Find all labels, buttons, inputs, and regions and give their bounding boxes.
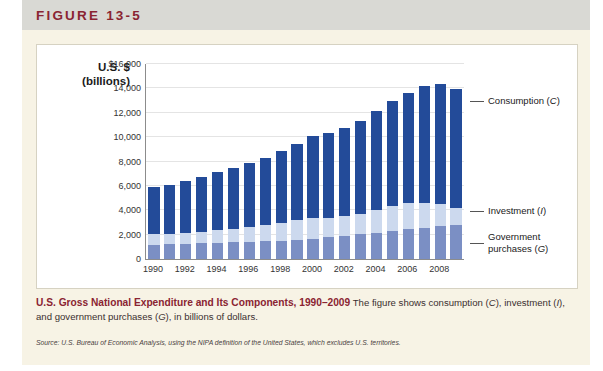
caption-title: U.S. Gross National Expenditure and Its … bbox=[36, 297, 350, 308]
bar-segment-government bbox=[339, 236, 350, 259]
bar bbox=[148, 187, 159, 259]
bar-segment-government bbox=[276, 241, 287, 259]
bar-segment-government bbox=[291, 240, 302, 259]
bar bbox=[419, 86, 430, 259]
bar-segment-consumption bbox=[244, 163, 255, 227]
bar-segment-government bbox=[419, 228, 430, 259]
bar bbox=[244, 163, 255, 259]
caption-body-4: ), in billions of dollars. bbox=[166, 311, 258, 322]
bar-segment-consumption bbox=[164, 185, 175, 234]
bar-segment-investment bbox=[291, 220, 302, 240]
bar bbox=[307, 136, 318, 259]
bar-segment-government bbox=[387, 231, 398, 259]
government-leader-line bbox=[470, 243, 484, 244]
x-tick-label: 2004 bbox=[359, 264, 393, 274]
bar-segment-investment bbox=[387, 206, 398, 231]
bar-segment-investment bbox=[212, 230, 223, 243]
bar-segment-consumption bbox=[228, 168, 239, 229]
bar-segment-consumption bbox=[276, 151, 287, 222]
caption-body-2: ), investment ( bbox=[496, 297, 557, 308]
figure-source: Source: U.S. Bureau of Economic Analysis… bbox=[36, 339, 576, 346]
bar-segment-investment bbox=[307, 218, 318, 239]
bar-segment-investment bbox=[180, 233, 191, 244]
gridline bbox=[146, 63, 464, 64]
bar-segment-investment bbox=[355, 214, 366, 234]
bar-segment-investment bbox=[276, 223, 287, 241]
annotation-government-label-2: purchases ( bbox=[488, 243, 538, 254]
bar bbox=[323, 133, 334, 259]
bar-segment-consumption bbox=[355, 121, 366, 214]
bar bbox=[339, 128, 350, 259]
y-tick-label: 12,000 bbox=[89, 108, 141, 118]
page-edge-bottom bbox=[0, 365, 603, 371]
bar-segment-investment bbox=[244, 227, 255, 242]
bar-segment-investment bbox=[450, 208, 461, 225]
bar bbox=[450, 89, 461, 259]
investment-leader-line bbox=[470, 211, 484, 212]
bar-segment-consumption bbox=[307, 136, 318, 217]
annotation-consumption: Consumption (C) bbox=[488, 95, 560, 107]
gridline bbox=[146, 209, 464, 210]
bar-segment-consumption bbox=[339, 128, 350, 217]
bar bbox=[276, 151, 287, 259]
bar-segment-investment bbox=[339, 216, 350, 235]
figure-page: FIGURE 13-5 U.S. $ (billions) 02,0004,00… bbox=[0, 0, 603, 371]
bar-segment-investment bbox=[435, 204, 446, 226]
bar bbox=[403, 93, 414, 259]
bar-segment-government bbox=[371, 233, 382, 259]
y-tick-label: 14,000 bbox=[89, 83, 141, 93]
bar-segment-government bbox=[450, 225, 461, 259]
bar-segment-consumption bbox=[419, 86, 430, 203]
x-tick-label: 1992 bbox=[168, 264, 202, 274]
caption-body-1: The figure shows consumption ( bbox=[353, 297, 489, 308]
bar-segment-consumption bbox=[196, 177, 207, 232]
bar-segment-consumption bbox=[435, 84, 446, 204]
bar-segment-government bbox=[148, 245, 159, 259]
annotation-consumption-label: Consumption ( bbox=[488, 95, 550, 106]
bar bbox=[291, 144, 302, 259]
x-tick-label: 2000 bbox=[295, 264, 329, 274]
x-tick-label: 1990 bbox=[136, 264, 170, 274]
x-tick-label: 2006 bbox=[390, 264, 424, 274]
y-tick-label: 10,000 bbox=[89, 132, 141, 142]
caption-symbol-g: G bbox=[158, 311, 165, 322]
x-tick-label: 2008 bbox=[422, 264, 456, 274]
bar-segment-government bbox=[228, 242, 239, 259]
bar-segment-consumption bbox=[387, 101, 398, 206]
bar-segment-government bbox=[435, 226, 446, 259]
y-tick-label: 6,000 bbox=[89, 181, 141, 191]
bar-segment-government bbox=[212, 243, 223, 259]
bar-segment-consumption bbox=[450, 89, 461, 208]
bar-segment-investment bbox=[148, 234, 159, 245]
annotation-government: Government purchases (G) bbox=[488, 231, 548, 254]
bar-segment-consumption bbox=[291, 144, 302, 220]
figure-label: FIGURE 13-5 bbox=[36, 8, 142, 23]
bar-segment-government bbox=[244, 242, 255, 259]
y-tick-label: 0 bbox=[89, 254, 141, 264]
annotation-government-paren: ) bbox=[545, 243, 548, 254]
annotation-investment: Investment (I) bbox=[488, 205, 546, 217]
bar-segment-government bbox=[307, 239, 318, 259]
bar-segment-government bbox=[260, 241, 271, 259]
x-tick-label: 1998 bbox=[263, 264, 297, 274]
bar bbox=[435, 84, 446, 259]
annotation-investment-label: Investment ( bbox=[488, 205, 540, 216]
bar-segment-government bbox=[323, 237, 334, 259]
bar-segment-investment bbox=[371, 210, 382, 233]
bar-segment-government bbox=[355, 234, 366, 259]
bar-segment-investment bbox=[260, 225, 271, 242]
page-edge-left bbox=[0, 0, 22, 371]
bar-segment-consumption bbox=[180, 181, 191, 233]
bar-segment-investment bbox=[228, 229, 239, 243]
gridline bbox=[146, 234, 464, 235]
bar bbox=[355, 121, 366, 259]
bar-segment-consumption bbox=[323, 133, 334, 218]
y-tick-label: 2,000 bbox=[89, 230, 141, 240]
page-edge-right bbox=[590, 0, 603, 371]
bar-segment-consumption bbox=[260, 158, 271, 225]
bar-segment-government bbox=[403, 229, 414, 259]
figure-caption: U.S. Gross National Expenditure and Its … bbox=[36, 296, 576, 323]
bar bbox=[387, 101, 398, 259]
annotation-government-label-1: Government bbox=[488, 231, 540, 242]
bar-segment-investment bbox=[196, 232, 207, 244]
